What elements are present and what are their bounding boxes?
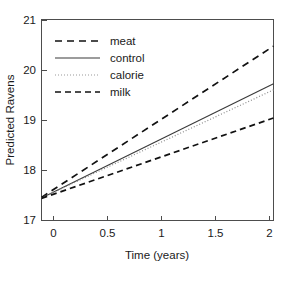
series-line-meat [42, 46, 274, 197]
x-tick-label-2: 2 [266, 227, 272, 239]
y-tick-label-17: 17 [23, 214, 36, 226]
y-axis-tick-labels: 17 18 19 20 21 [23, 14, 36, 226]
series-line-milk [42, 118, 274, 198]
x-axis-ticks [54, 216, 270, 221]
series-line-calorie [42, 90, 274, 198]
legend-entry-meat[interactable]: meat [55, 35, 136, 47]
y-axis-ticks [42, 21, 47, 221]
chart-legend: meat control calorie milk [55, 35, 145, 98]
x-tick-label-1p5: 1.5 [208, 227, 224, 239]
legend-label-milk: milk [110, 86, 131, 98]
x-axis-tick-labels: 0 0.5 1 1.5 2 [50, 227, 272, 239]
legend-entry-control[interactable]: control [55, 52, 145, 64]
plot-frame [42, 20, 274, 221]
y-tick-label-20: 20 [23, 64, 36, 76]
y-axis-title: Predicted Ravens [4, 74, 16, 165]
x-tick-label-0: 0 [50, 227, 56, 239]
x-axis-title: Time (years) [125, 249, 189, 261]
series-line-control [42, 84, 274, 198]
series-group [42, 46, 274, 198]
x-tick-label-1: 1 [158, 227, 164, 239]
y-tick-label-18: 18 [23, 164, 36, 176]
legend-label-calorie: calorie [110, 69, 144, 81]
legend-entry-milk[interactable]: milk [55, 86, 131, 98]
y-tick-label-19: 19 [23, 114, 36, 126]
chart-figure: 17 18 19 20 21 0 0.5 1 1.5 2 Time (years… [0, 0, 288, 282]
legend-entry-calorie[interactable]: calorie [55, 69, 144, 81]
legend-label-meat: meat [110, 35, 136, 47]
x-tick-label-0p5: 0.5 [100, 227, 116, 239]
y-tick-label-21: 21 [23, 14, 36, 26]
line-chart: 17 18 19 20 21 0 0.5 1 1.5 2 Time (years… [0, 0, 288, 282]
legend-label-control: control [110, 52, 145, 64]
